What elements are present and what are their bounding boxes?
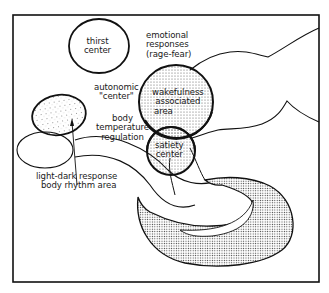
body-temperature-label: body temperature regulation: [96, 114, 149, 142]
label-line: regulation: [96, 133, 149, 142]
thirst-center-label: thirst center: [84, 37, 111, 56]
stippled-lower-region: [138, 178, 293, 267]
autonomic-center-label: autonomic "center": [94, 83, 139, 102]
wakefulness-label: wakefulness associated area: [152, 88, 204, 116]
optic-chiasm: [17, 132, 73, 168]
label-line: (rage-fear): [146, 50, 191, 59]
emotional-responses-label: emotional responses (rage-fear): [146, 31, 191, 59]
label-line: body rhythm area: [36, 181, 117, 190]
label-line: center: [84, 46, 111, 55]
satiety-center-label: satiety center: [155, 141, 184, 160]
label-line: area: [152, 107, 204, 116]
brainstem-outline-upper: [190, 28, 319, 70]
label-line: center: [155, 150, 184, 159]
label-line: "center": [94, 92, 139, 101]
light-dark-label: light-dark response body rhythm area: [36, 172, 117, 191]
